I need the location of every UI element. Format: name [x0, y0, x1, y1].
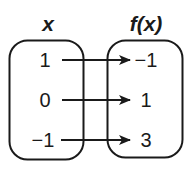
range-header: f(x) [130, 12, 163, 35]
range-value: 3 [140, 129, 151, 151]
domain-value: 0 [39, 89, 50, 111]
domain-value: 1 [39, 49, 50, 71]
domain-value: −1 [32, 129, 55, 151]
domain-header: x [41, 12, 55, 35]
range-value: −1 [135, 49, 158, 71]
mapping-diagram: x f(x) 1 0 −1 −1 1 3 [0, 0, 190, 178]
range-value: 1 [140, 89, 151, 111]
